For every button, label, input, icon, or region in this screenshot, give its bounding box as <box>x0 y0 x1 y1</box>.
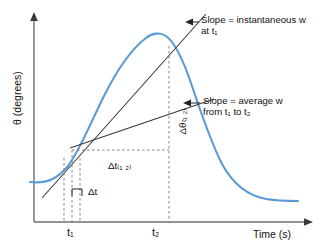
theta-curve <box>30 34 298 201</box>
tangent-slope-annotation: Slope = instantaneous w at t₁ <box>201 14 306 36</box>
tangent-annotation-line-2: at t₁ <box>201 25 306 36</box>
secant-slope-annotation: Slope = average w from t₁ to t₂ <box>203 95 283 117</box>
delta-t-bracket <box>72 189 82 196</box>
angular-displacement-figure: θ (degrees) Time (s) t₁ t₂ Slope = insta… <box>0 0 327 251</box>
delta-t-label: Δt <box>88 186 97 197</box>
x-axis-arrowhead <box>304 218 313 226</box>
y-axis-label: θ (degrees) <box>11 43 23 153</box>
y-axis-arrowhead <box>30 12 38 21</box>
delta-theta-12-label: Δθ₍₁ ₂₎ <box>177 91 188 153</box>
secant-annotation-line-1: Slope = average w <box>203 95 283 106</box>
leader-arrowhead-tangent <box>185 19 193 26</box>
x-tick-label-t1: t₁ <box>67 226 74 239</box>
x-tick-label-t2: t₂ <box>152 226 159 239</box>
tangent-annotation-line-1: Slope = instantaneous w <box>201 14 306 25</box>
x-axis-label: Time (s) <box>253 228 291 240</box>
secant-annotation-line-2: from t₁ to t₂ <box>203 106 283 117</box>
graph-canvas <box>0 0 327 251</box>
delta-t-12-label: Δt₍₁ ₂₎ <box>108 160 131 171</box>
axes-group <box>30 12 313 226</box>
